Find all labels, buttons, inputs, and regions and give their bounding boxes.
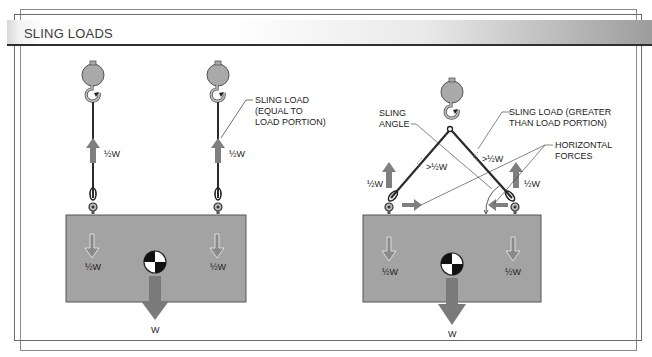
load-portion-label: ½W <box>85 262 102 272</box>
sling-angle-arc <box>486 186 499 213</box>
sling-load-greater-label-2: THAN LOAD PORTION) <box>509 118 607 128</box>
sling-loads-diagram: ½W ½W SLING LOAD (EQUAL TO LOAD PORTION)… <box>0 0 652 357</box>
callout-sling-load: SLING LOAD <box>255 95 310 105</box>
vertical-component-right: ½W <box>524 179 541 189</box>
horizontal-forces-label: HORIZONTAL <box>555 140 612 150</box>
center-of-gravity-icon <box>144 251 166 273</box>
shackle-icon <box>385 203 393 214</box>
sling-angle-leader <box>411 124 492 189</box>
sling-tension-label-right: >½W <box>482 154 504 164</box>
horizontal-forces-label-2: FORCES <box>555 151 593 161</box>
crane-hook-icon <box>441 78 463 118</box>
vertical-component-left: ½W <box>367 179 384 189</box>
up-arrow-icon <box>86 138 100 163</box>
callout-leader <box>221 100 246 138</box>
sling-load-label: ½W <box>229 149 246 159</box>
load-portion-label: ½W <box>382 267 399 277</box>
vertical-sling-1: ½W <box>82 61 121 214</box>
load-portion-label: ½W <box>210 262 227 272</box>
center-of-gravity-icon <box>441 253 463 275</box>
up-arrow-icon <box>382 162 396 188</box>
sling-load-greater-label: SLING LOAD (GREATER <box>509 107 612 117</box>
sling-eye-icon <box>387 189 399 202</box>
callout-equal-to: (EQUAL TO <box>255 106 303 116</box>
callout-load-portion: LOAD PORTION) <box>255 117 326 127</box>
left-arrow-icon <box>488 199 508 211</box>
vertical-sling-2: ½W <box>207 61 246 214</box>
angled-sling-right <box>452 131 512 198</box>
shackle-icon <box>214 203 222 214</box>
shackle-icon <box>511 203 519 214</box>
sling-load-leader <box>478 112 510 149</box>
total-weight-label: W <box>448 329 457 339</box>
left-diagram: ½W ½W SLING LOAD (EQUAL TO LOAD PORTION)… <box>66 61 326 335</box>
shackle-icon <box>89 203 97 214</box>
right-arrow-icon <box>402 199 422 211</box>
right-diagram: >½W >½W ½W ½W SLING ANGLE SLING LOAD (GR… <box>363 78 612 339</box>
up-arrow-icon <box>211 138 225 163</box>
sling-angle-label-2: ANGLE <box>379 119 410 129</box>
crane-hook-icon <box>207 61 229 101</box>
total-weight-label: W <box>151 325 160 335</box>
sling-angle-label: SLING <box>379 108 406 118</box>
crane-hook-icon <box>82 61 104 101</box>
sling-load-label: ½W <box>104 149 121 159</box>
load-portion-label: ½W <box>505 267 522 277</box>
sling-tension-label-left: >½W <box>426 162 448 172</box>
